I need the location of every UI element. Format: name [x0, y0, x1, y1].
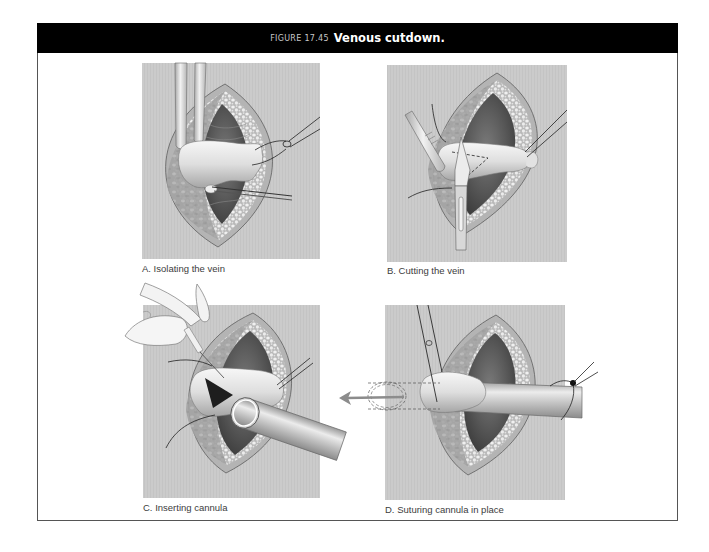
panel-d-illustration: [368, 305, 598, 500]
panel-c-illustration: [125, 283, 346, 498]
panel-b-illustration: [387, 65, 567, 262]
panel-a-illustration: [142, 63, 320, 259]
panel-d-caption: D. Suturing cannula in place: [385, 504, 504, 515]
figure-artwork: [0, 0, 709, 552]
panel-b-caption: B. Cutting the vein: [387, 265, 465, 276]
panel-c-caption: C. Inserting cannula: [143, 502, 228, 513]
panel-a-caption: A. Isolating the vein: [142, 263, 225, 274]
